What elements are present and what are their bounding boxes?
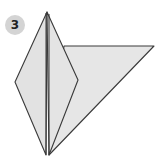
step-number-badge: 3: [5, 15, 25, 35]
step-number: 3: [11, 19, 19, 31]
